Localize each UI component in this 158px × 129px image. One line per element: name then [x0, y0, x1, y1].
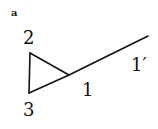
edge-2-1 [30, 53, 69, 75]
diagram-canvas: a 2 3 1 1′ [0, 0, 158, 129]
node-label-1-prime: 1′ [131, 56, 147, 74]
panel-label: a [11, 8, 17, 18]
node-label-1: 1 [82, 81, 93, 99]
edge-2-3 [29, 53, 30, 93]
node-label-3: 3 [23, 101, 34, 119]
node-label-2: 2 [23, 29, 34, 47]
edge-3-1 [29, 75, 69, 93]
